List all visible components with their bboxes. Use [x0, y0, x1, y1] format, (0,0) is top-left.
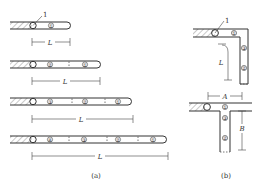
- dimension-label-a: A: [221, 93, 227, 101]
- segment-number: ①: [223, 104, 228, 110]
- fixed-wall-hatch: [10, 22, 32, 29]
- segment-number: ①: [151, 137, 156, 143]
- callout-label: 1: [43, 11, 47, 19]
- dimension-label: L: [218, 59, 224, 67]
- segment-number: ④: [48, 137, 53, 143]
- dimension-label: L: [97, 153, 103, 161]
- dimension-L-row-2: L: [32, 77, 100, 86]
- fixed-wall-hatch: [10, 61, 32, 68]
- rod-outline: [193, 29, 248, 84]
- segment-number: ③: [242, 45, 247, 51]
- dimension-A: A: [208, 92, 242, 101]
- panel-b-caption: (b): [221, 172, 231, 180]
- segment-number: ①: [49, 23, 54, 29]
- dimension-L-row-3: L: [32, 115, 133, 124]
- fixed-wall-hatch: [10, 136, 32, 143]
- rod-row-4: ④ ③ ② ① L: [10, 136, 168, 161]
- segment-number: ②: [116, 137, 121, 143]
- segment-number: ①: [116, 99, 121, 105]
- rod-row-3: ③ ② ① L: [10, 98, 133, 124]
- dimension-label: L: [78, 116, 84, 124]
- fixed-wall-hatch: [189, 103, 205, 111]
- rod-row-1: ① 1 L: [10, 11, 71, 47]
- panel-a: ① 1 L ② ①: [10, 11, 168, 180]
- corner-rod-top: 1 ① ③ ② L: [193, 17, 248, 84]
- panel-b: 1 ① ③ ② L A: [189, 17, 252, 180]
- rod-outline: [10, 136, 167, 143]
- panel-a-caption: (a): [91, 172, 101, 180]
- segment-number: ③: [48, 99, 53, 105]
- rod-row-2: ② ① L: [10, 61, 101, 86]
- segment-number: ②: [242, 65, 247, 71]
- dimension-B: B: [238, 111, 246, 150]
- dimension-label-b: B: [238, 125, 244, 133]
- segment-number: ①: [83, 62, 88, 68]
- dimension-L-row-1: L: [32, 38, 70, 47]
- segment-number: ②: [223, 135, 228, 141]
- callout-leader: [215, 21, 224, 33]
- segment-number: ②: [48, 62, 53, 68]
- fixed-wall-hatch: [10, 98, 32, 105]
- dimension-label: L: [47, 39, 53, 47]
- dimension-label: L: [62, 78, 68, 86]
- diagram-canvas: ① 1 L ② ①: [0, 0, 264, 192]
- segment-number: ①: [232, 30, 237, 36]
- dimension-L-row-4: L: [32, 152, 168, 161]
- segment-number: ③: [223, 115, 228, 121]
- dimension-L-corner: L: [218, 44, 232, 80]
- callout-leader: [33, 16, 42, 26]
- segment-number: ③: [82, 137, 87, 143]
- segment-number: ②: [83, 99, 88, 105]
- callout-label: 1: [225, 17, 229, 25]
- tee-rod-bottom: A ① ③ ② B: [189, 92, 252, 152]
